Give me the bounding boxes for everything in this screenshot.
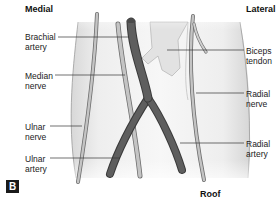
label-ulnar-artery: Ulnar artery xyxy=(25,154,47,174)
label-brachial-artery: Brachial artery xyxy=(25,32,56,52)
panel-label-badge: B xyxy=(6,180,19,193)
label-line: Ulnar xyxy=(25,154,47,164)
label-radial-artery: Radial artery xyxy=(246,139,270,159)
roof-heading: Roof xyxy=(200,189,221,199)
label-line: tendon xyxy=(246,56,272,66)
label-line: Radial xyxy=(246,139,270,149)
label-line: artery xyxy=(25,164,47,174)
label-line: Brachial xyxy=(25,32,56,42)
label-line: artery xyxy=(25,42,56,52)
medial-heading: Medial xyxy=(25,4,53,14)
label-line: nerve xyxy=(25,81,53,91)
label-biceps-tendon: Biceps tendon xyxy=(246,46,272,66)
label-line: Biceps xyxy=(246,46,272,56)
label-ulnar-nerve: Ulnar nerve xyxy=(25,122,46,142)
label-line: Radial xyxy=(246,89,270,99)
label-line: nerve xyxy=(246,99,270,109)
label-line: Ulnar xyxy=(25,122,46,132)
label-line: nerve xyxy=(25,132,46,142)
label-line: Median xyxy=(25,71,53,81)
label-radial-nerve: Radial nerve xyxy=(246,89,270,109)
label-line: artery xyxy=(246,149,270,159)
lateral-heading: Lateral xyxy=(246,4,276,14)
label-median-nerve: Median nerve xyxy=(25,71,53,91)
